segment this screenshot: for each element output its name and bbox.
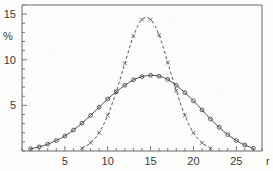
chart-figure: 51015 510152025 % r (0, 0, 273, 171)
y-tick-label: 5 (10, 99, 16, 111)
figure-background (0, 0, 273, 171)
x-axis-label: r (266, 155, 270, 167)
y-tick-label: 10 (4, 54, 16, 66)
y-axis-label: % (3, 30, 13, 42)
y-tick-label: 15 (4, 8, 16, 20)
x-tick-label: 15 (144, 155, 156, 167)
x-tick-label: 25 (230, 155, 242, 167)
plot-area: 51015 510152025 % r (0, 0, 273, 171)
x-tick-label: 5 (62, 155, 68, 167)
x-tick-label: 10 (102, 155, 114, 167)
x-tick-label: 20 (187, 155, 199, 167)
